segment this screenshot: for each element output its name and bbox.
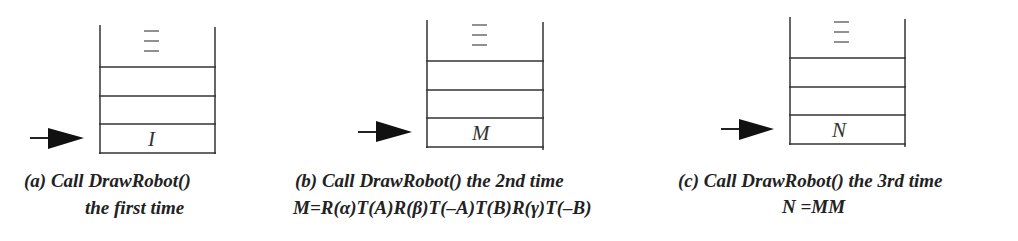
caption-b-line1: (b) Call DrawRobot() the 2nd time (295, 170, 564, 192)
arrow-icon (358, 121, 412, 142)
stack-top-label-a: I (147, 127, 156, 151)
caption-b-line2: M=R(α)T(A)R(β)T(–A)T(B)R(γ)T(–B) (293, 197, 592, 219)
caption-a-line1: (a) Call DrawRobot() (24, 170, 191, 192)
stack-top-label-b: M (471, 121, 491, 145)
caption-a-line2: the first time (85, 197, 184, 219)
arrow-icon (721, 119, 774, 140)
ellipsis-icon (144, 31, 159, 51)
ellipsis-icon (834, 22, 849, 42)
arrow-icon (30, 128, 84, 149)
stack-a (99, 25, 216, 154)
caption-c-line2: N =MM (782, 196, 845, 218)
ellipsis-icon (472, 25, 487, 45)
caption-c-line1: (c) Call DrawRobot() the 3rd time (678, 170, 1018, 192)
stack-top-label-c: N (831, 118, 847, 142)
stack-c (789, 17, 906, 147)
